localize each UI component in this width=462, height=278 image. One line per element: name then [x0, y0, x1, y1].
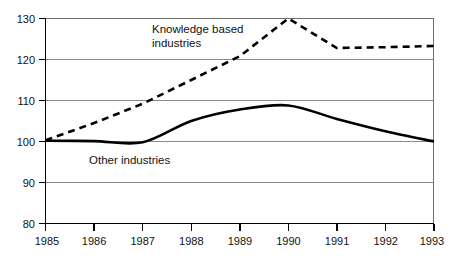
x-tickmarks [46, 224, 435, 232]
x-label-1992: 1992 [373, 235, 397, 247]
series-other-industries [46, 105, 435, 144]
y-label-120: 120 [17, 54, 35, 66]
series-knowledge-based-industries [46, 19, 435, 141]
x-label-1986: 1986 [82, 235, 106, 247]
x-axis-labels: 1985 1986 1987 1988 1989 1990 1991 1992 … [35, 235, 444, 247]
y-label-80: 80 [23, 218, 35, 230]
annotation-knowledge-based-industries: Knowledge based industries [152, 23, 243, 49]
x-label-1991: 1991 [325, 235, 349, 247]
y-label-130: 130 [17, 13, 35, 25]
x-label-1987: 1987 [130, 235, 154, 247]
x-label-1988: 1988 [179, 235, 203, 247]
chart-canvas: 130 120 110 100 90 80 1985 1986 1987 198… [0, 0, 462, 278]
y-label-100: 100 [17, 136, 35, 148]
plot-frame [46, 19, 434, 224]
y-axis-labels: 130 120 110 100 90 80 [17, 13, 35, 230]
y-label-110: 110 [17, 95, 35, 107]
annotation-other-industries: Other industries [89, 154, 170, 166]
y-tickmarks [39, 19, 46, 224]
x-label-1985: 1985 [35, 235, 59, 247]
x-label-1990: 1990 [276, 235, 300, 247]
annotation-knowledge-line1: Knowledge based [152, 23, 243, 35]
line-chart-figure: 130 120 110 100 90 80 1985 1986 1987 198… [0, 0, 462, 278]
x-label-1993: 1993 [420, 235, 444, 247]
annotation-knowledge-line2: industries [152, 37, 201, 49]
y-label-90: 90 [23, 177, 35, 189]
x-label-1989: 1989 [228, 235, 252, 247]
